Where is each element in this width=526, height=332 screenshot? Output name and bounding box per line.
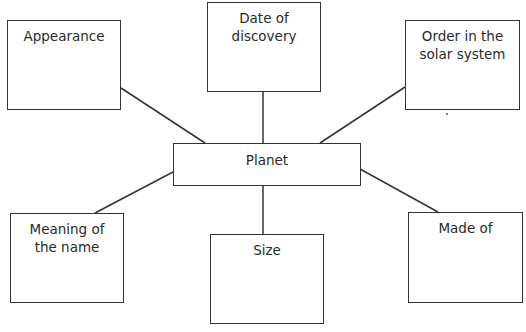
node-label-line: Meaning of bbox=[11, 220, 123, 238]
node-label-line: solar system bbox=[406, 45, 519, 63]
node-label-line: Appearance bbox=[8, 27, 120, 45]
node-meaning-of-name: Meaning of the name bbox=[10, 213, 124, 303]
node-size: Size bbox=[210, 234, 324, 324]
connector-appearance bbox=[121, 88, 205, 143]
node-label-line: the name bbox=[11, 238, 123, 256]
center-label: Planet bbox=[174, 151, 360, 169]
node-order-in-solar-system: Order in the solar system bbox=[405, 20, 520, 110]
node-label-line: Order in the bbox=[406, 27, 519, 45]
node-appearance: Appearance bbox=[7, 20, 121, 110]
connector-order bbox=[320, 87, 405, 143]
node-label-line: discovery bbox=[208, 27, 320, 45]
node-label-line: Size bbox=[211, 241, 323, 259]
node-made-of: Made of bbox=[408, 212, 523, 303]
node-date-of-discovery: Date of discovery bbox=[207, 2, 321, 92]
connector-meaning bbox=[95, 172, 173, 213]
node-label-line: Date of bbox=[208, 9, 320, 27]
connector-made bbox=[360, 169, 438, 212]
center-node-planet: Planet bbox=[173, 143, 361, 186]
node-label-line: Made of bbox=[409, 219, 522, 237]
stray-mark bbox=[446, 113, 448, 115]
